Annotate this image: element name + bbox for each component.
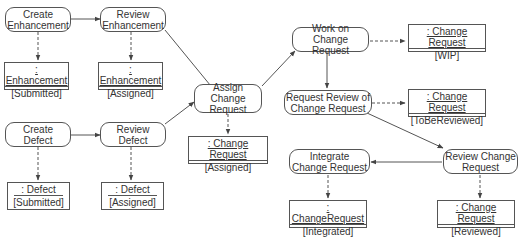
- activity-label: Integrate: [310, 151, 349, 162]
- activity-label: Enhancement: [7, 20, 69, 31]
- activity-create-defect[interactable]: Create Defect: [5, 122, 71, 147]
- object-name: : Change Request: [189, 137, 267, 160]
- object-name: : Defect: [14, 183, 63, 196]
- object-defect-submitted[interactable]: : Defect [Submitted]: [7, 182, 70, 210]
- activity-label: Enhancement: [102, 20, 164, 31]
- activity-label: Change Request: [290, 103, 365, 114]
- activity-label: Request Review of: [286, 92, 370, 103]
- object-change-request-integrated[interactable]: : ChangeRequest [Integrated]: [289, 200, 367, 228]
- object-enhancement-submitted[interactable]: : Enhancement [Submitted]: [4, 62, 69, 90]
- object-name: : Change Request: [438, 201, 514, 224]
- object-state: [ToBeReviewed]: [409, 113, 485, 127]
- activity-label: Defect: [119, 135, 148, 146]
- object-state: [Reviewed]: [438, 224, 514, 237]
- activity-label: Review: [117, 124, 150, 135]
- activity-label: Work on: [312, 23, 349, 34]
- object-change-request-assigned[interactable]: : Change Request [Assigned]: [188, 136, 268, 164]
- activity-label: Change Request: [293, 34, 368, 56]
- activity-integrate-change-request[interactable]: Integrate Change Request: [289, 149, 370, 174]
- object-state: [Integrated]: [290, 224, 366, 237]
- object-change-request-wip[interactable]: : Change Request [WIP]: [408, 24, 486, 52]
- object-name: : Enhancement: [99, 63, 162, 86]
- object-state: [WIP]: [409, 48, 485, 62]
- object-state: [Submitted]: [5, 86, 68, 100]
- object-state: [Submitted]: [8, 196, 69, 209]
- activity-assign-change-request[interactable]: Assign Change Request: [194, 84, 262, 113]
- object-name: : ChangeRequest: [290, 201, 366, 224]
- object-name: : Change Request: [409, 90, 485, 113]
- activity-label: Create: [23, 9, 53, 20]
- activity-work-on-change-request[interactable]: Work on Change Request: [292, 27, 369, 52]
- object-state: [Assigned]: [99, 86, 162, 100]
- object-state: [Assigned]: [102, 196, 163, 209]
- object-state: [Assigned]: [189, 160, 267, 174]
- object-name: : Defect: [108, 183, 157, 196]
- activity-request-review[interactable]: Request Review of Change Request: [284, 90, 372, 115]
- activity-label: Review Change: [445, 151, 516, 162]
- activity-label: Create: [23, 124, 53, 135]
- activity-label: Defect: [24, 135, 53, 146]
- object-defect-assigned[interactable]: : Defect [Assigned]: [101, 182, 164, 210]
- activity-review-change-request[interactable]: Review Change Request: [443, 149, 518, 174]
- activity-label: Assign Change: [195, 82, 261, 104]
- activity-review-defect[interactable]: Review Defect: [100, 122, 166, 147]
- object-change-request-reviewed[interactable]: : Change Request [Reviewed]: [437, 200, 515, 228]
- object-enhancement-assigned[interactable]: : Enhancement [Assigned]: [98, 62, 163, 90]
- activity-label: Review: [117, 9, 150, 20]
- object-name: : Change Request: [409, 25, 485, 48]
- activity-review-enhancement[interactable]: Review Enhancement: [100, 7, 166, 32]
- activity-label: Request: [209, 104, 246, 115]
- object-name: : Enhancement: [5, 63, 68, 86]
- activity-label: Change Request: [292, 162, 367, 173]
- activity-label: Request: [462, 162, 499, 173]
- activity-diagram: Create Enhancement Review Enhancement Cr…: [0, 0, 519, 237]
- object-change-request-tobereviewed[interactable]: : Change Request [ToBeReviewed]: [408, 89, 486, 117]
- activity-create-enhancement[interactable]: Create Enhancement: [5, 7, 71, 32]
